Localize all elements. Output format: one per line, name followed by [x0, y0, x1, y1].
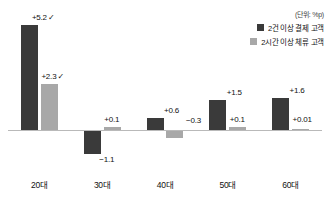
bar-40s-dwell [166, 131, 183, 138]
category-label-60s: 60대 [259, 178, 322, 194]
group-40s: +0.6 −0.3 [134, 8, 197, 176]
bar-40s-payment [147, 118, 164, 130]
group-50s: +1.5 +0.1 [196, 8, 259, 176]
value-label-60s-dwell: +0.01 [293, 115, 312, 124]
value-label-30s-dwell: +0.1 [104, 115, 119, 124]
bar-groups: +5.2✓ +2.3✓ −1.1 +0.1 [8, 8, 322, 176]
bar-60s-dwell [292, 129, 309, 130]
bar-20s-dwell [41, 84, 58, 130]
category-axis: 20대 30대 40대 50대 60대 [8, 178, 322, 194]
bar-20s-payment [21, 25, 38, 130]
value-label-20s-dwell: +2.3✓ [41, 72, 64, 81]
bar-30s-payment [84, 131, 101, 154]
check-icon: ✓ [57, 72, 64, 81]
plot-area: +5.2✓ +2.3✓ −1.1 +0.1 [8, 8, 322, 176]
bar-30s-dwell [104, 127, 121, 130]
value-label-50s-dwell: +0.1 [230, 115, 245, 124]
value-label-40s-payment: +0.6 [164, 106, 179, 115]
category-label-40s: 40대 [134, 178, 197, 194]
bar-50s-payment [209, 100, 226, 130]
group-60s: +1.6 +0.01 [259, 8, 322, 176]
bar-50s-dwell [229, 127, 246, 130]
category-label-30s: 30대 [71, 178, 134, 194]
value-label-50s-payment: +1.5 [227, 88, 242, 97]
check-icon: ✓ [48, 13, 55, 22]
value-label-30s-payment: −1.1 [99, 155, 114, 164]
bar-60s-payment [272, 98, 289, 130]
value-label-20s-payment: +5.2✓ [32, 13, 55, 22]
bar-chart: (단위: %p) 2건 이상 결제 고객 2시간 이상 체류 고객 +5.2✓ … [0, 0, 330, 211]
group-20s: +5.2✓ +2.3✓ [8, 8, 71, 176]
category-label-20s: 20대 [8, 178, 71, 194]
value-label-60s-payment: +1.6 [290, 86, 305, 95]
group-30s: −1.1 +0.1 [71, 8, 134, 176]
category-label-50s: 50대 [196, 178, 259, 194]
